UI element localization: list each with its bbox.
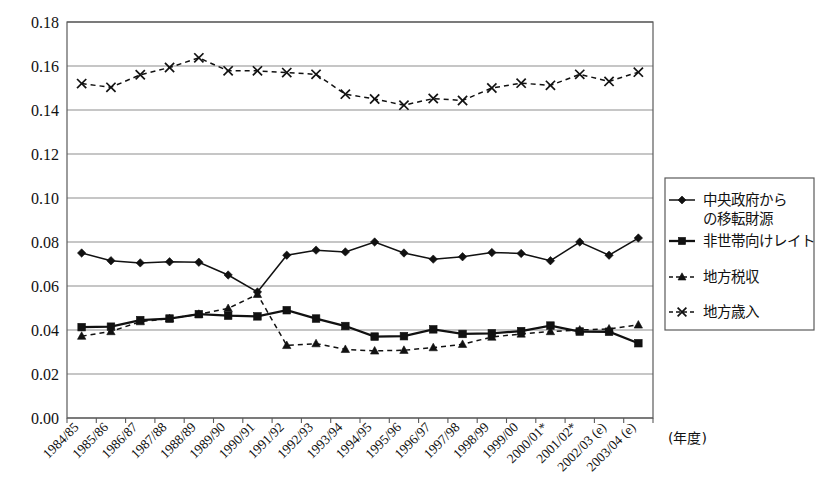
cross-marker-icon — [136, 70, 145, 79]
x-axis-unit-label: (年度) — [668, 430, 707, 446]
diamond-marker-icon — [634, 234, 642, 242]
diamond-marker-icon — [312, 246, 320, 254]
legend-item-label: 中央政府から — [703, 192, 787, 208]
diamond-marker-icon — [488, 248, 496, 256]
square-marker-icon — [224, 312, 232, 320]
y-axis-tick-label: 0.12 — [31, 146, 59, 163]
y-axis-tick-label: 0.18 — [31, 14, 59, 31]
y-axis-tick-label: 0.16 — [31, 58, 59, 75]
diamond-marker-icon — [195, 258, 203, 266]
cross-marker-icon — [311, 70, 320, 79]
chart-page: 0.180.160.140.120.100.080.060.040.020.00… — [0, 0, 820, 501]
chart-plot-border — [67, 22, 653, 418]
cross-marker-icon — [487, 83, 496, 92]
legend-item-label: 地方税収 — [703, 269, 760, 285]
square-marker-icon — [283, 306, 291, 314]
square-marker-icon — [312, 315, 320, 323]
y-axis-tick-label: 0.06 — [31, 278, 59, 295]
cross-marker-icon — [604, 77, 613, 86]
chart-x-axis-unit: (年度) — [668, 430, 707, 446]
cross-marker-icon — [165, 63, 174, 72]
cross-marker-icon — [634, 68, 643, 77]
cross-marker-icon — [546, 81, 555, 90]
cross-marker-icon — [106, 83, 115, 92]
chart-series — [77, 290, 642, 354]
y-axis-tick-label: 0.10 — [31, 190, 59, 207]
square-marker-icon — [429, 326, 437, 334]
diamond-marker-icon — [576, 238, 584, 246]
chart-y-axis-labels: 0.180.160.140.120.100.080.060.040.020.00 — [31, 14, 59, 427]
chart-series — [78, 306, 642, 347]
square-marker-icon — [371, 333, 379, 341]
y-axis-tick-label: 0.04 — [31, 322, 59, 339]
legend-item-label: 非世帯向けレイト — [703, 233, 815, 249]
chart-x-tickmarks — [67, 418, 653, 423]
chart-series — [77, 53, 643, 110]
diamond-marker-icon — [517, 249, 525, 257]
cross-marker-icon — [575, 70, 584, 79]
cross-marker-icon — [458, 96, 467, 105]
square-marker-icon — [635, 339, 643, 347]
triangle-marker-icon — [312, 339, 320, 347]
y-axis-tick-label: 0.14 — [31, 102, 59, 119]
triangle-marker-icon — [224, 304, 232, 312]
plot-area-border — [67, 22, 653, 418]
diamond-marker-icon — [165, 258, 173, 266]
diamond-marker-icon — [458, 253, 466, 261]
cross-marker-icon — [194, 53, 203, 62]
square-marker-icon — [678, 237, 685, 244]
line-chart: 0.180.160.140.120.100.080.060.040.020.00… — [0, 0, 820, 501]
diamond-marker-icon — [546, 257, 554, 265]
series-polyline — [82, 310, 639, 343]
legend-item-label-line2: の移転財源 — [703, 211, 774, 227]
diamond-marker-icon — [429, 255, 437, 263]
diamond-marker-icon — [400, 249, 408, 257]
diamond-marker-icon — [107, 257, 115, 265]
triangle-marker-icon — [458, 340, 466, 348]
diamond-marker-icon — [77, 249, 85, 257]
diamond-marker-icon — [605, 251, 613, 259]
series-polyline — [82, 294, 639, 351]
chart-gridlines — [67, 22, 653, 418]
chart-legend[interactable]: 中央政府からの移転財源非世帯向けレイト地方税収地方歳入 — [665, 178, 815, 330]
y-axis-tick-label: 0.00 — [31, 410, 59, 427]
square-marker-icon — [78, 323, 86, 331]
chart-series — [77, 234, 642, 296]
square-marker-icon — [342, 322, 350, 330]
square-marker-icon — [254, 313, 262, 321]
y-axis-tick-label: 0.08 — [31, 234, 59, 251]
y-axis-tick-label: 0.02 — [31, 366, 59, 383]
square-marker-icon — [459, 330, 467, 338]
legend-item-label: 地方歳入 — [703, 304, 759, 320]
square-marker-icon — [400, 332, 408, 340]
chart-series-group — [77, 53, 643, 354]
diamond-marker-icon — [341, 248, 349, 256]
diamond-marker-icon — [224, 271, 232, 279]
chart-x-axis-labels: 1984/851985/861986/871987/881988/891989/… — [40, 419, 639, 474]
triangle-marker-icon — [634, 321, 642, 329]
series-polyline — [82, 238, 639, 292]
diamond-marker-icon — [136, 259, 144, 267]
diamond-marker-icon — [370, 238, 378, 246]
